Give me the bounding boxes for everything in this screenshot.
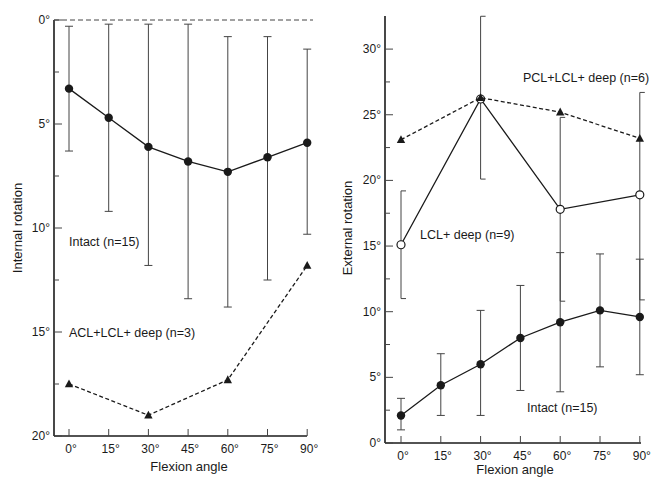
x-tick-label: 15° (102, 442, 120, 456)
y-tick-label: 0° (370, 436, 382, 450)
right-intact-label: Intact (n=15) (527, 401, 598, 415)
y-tick-label: 30° (363, 42, 381, 56)
x-tick-label: 15° (434, 449, 452, 463)
data-point-filled-circle (437, 381, 445, 389)
x-tick-label: 30° (141, 442, 159, 456)
data-point-filled-circle (303, 139, 311, 147)
data-point-open-circle (636, 191, 644, 199)
x-tick-label: 45° (181, 442, 199, 456)
series-intact-n-15 (65, 24, 312, 307)
data-point-filled-circle (144, 143, 152, 151)
data-point-open-circle (397, 241, 405, 249)
y-tick-label: 10° (32, 221, 50, 235)
data-point-open-circle (556, 205, 564, 213)
data-point-filled-circle (556, 318, 564, 326)
data-point-filled-circle (224, 168, 232, 176)
left-acl-label: ACL+LCL+ deep (n=3) (69, 326, 195, 340)
data-point-filled-circle (596, 306, 604, 314)
data-point-triangle (397, 135, 405, 143)
left-intact-label: Intact (n=15) (69, 235, 140, 249)
x-tick-label: 75° (593, 449, 611, 463)
data-point-filled-circle (516, 334, 524, 342)
x-tick-label: 75° (260, 442, 278, 456)
data-point-triangle (303, 261, 311, 269)
data-point-triangle (556, 108, 564, 116)
data-point-triangle (65, 380, 73, 388)
series-lcl-deep-n-9 (397, 16, 645, 301)
right-lcl-label: LCL+ deep (n=9) (420, 228, 515, 242)
x-tick-label: 60° (221, 442, 239, 456)
data-point-filled-circle (636, 313, 644, 321)
series-intact-n-15 (397, 253, 644, 430)
x-tick-label: 90° (300, 442, 318, 456)
right-pcl-label: PCL+LCL+ deep (n=6) (523, 71, 649, 85)
data-point-filled-circle (397, 411, 405, 419)
x-tick-label: 90° (633, 449, 651, 463)
y-tick-label: 20° (32, 429, 50, 443)
y-tick-label: 5° (39, 117, 51, 131)
data-point-filled-circle (184, 157, 192, 165)
x-tick-label: 60° (553, 449, 571, 463)
data-point-filled-circle (263, 153, 271, 161)
y-tick-label: 5° (370, 370, 382, 384)
y-tick-label: 0° (39, 13, 51, 27)
right-x-axis-title: Flexion angle (476, 462, 553, 477)
series-pcl-lcl-deep-n-6 (397, 93, 644, 143)
x-tick-label: 30° (474, 449, 492, 463)
data-point-triangle (636, 134, 644, 142)
series-line (401, 98, 640, 140)
figure: 0°15°30°45°60°75°90°0°5°10°15°20° 0°15°3… (0, 0, 657, 489)
data-point-filled-circle (105, 114, 113, 122)
x-tick-label: 0° (65, 442, 77, 456)
x-tick-label: 0° (397, 449, 409, 463)
data-point-filled-circle (476, 360, 484, 368)
left-y-axis-title: Internal rotation (10, 183, 25, 273)
x-tick-label: 45° (513, 449, 531, 463)
y-tick-label: 25° (363, 108, 381, 122)
y-tick-label: 10° (363, 305, 381, 319)
right-y-axis-title: External rotation (340, 181, 355, 276)
y-tick-label: 15° (363, 239, 381, 253)
y-tick-label: 15° (32, 325, 50, 339)
left-x-axis-title: Flexion angle (150, 459, 227, 474)
y-tick-label: 20° (363, 173, 381, 187)
data-point-filled-circle (65, 84, 73, 92)
